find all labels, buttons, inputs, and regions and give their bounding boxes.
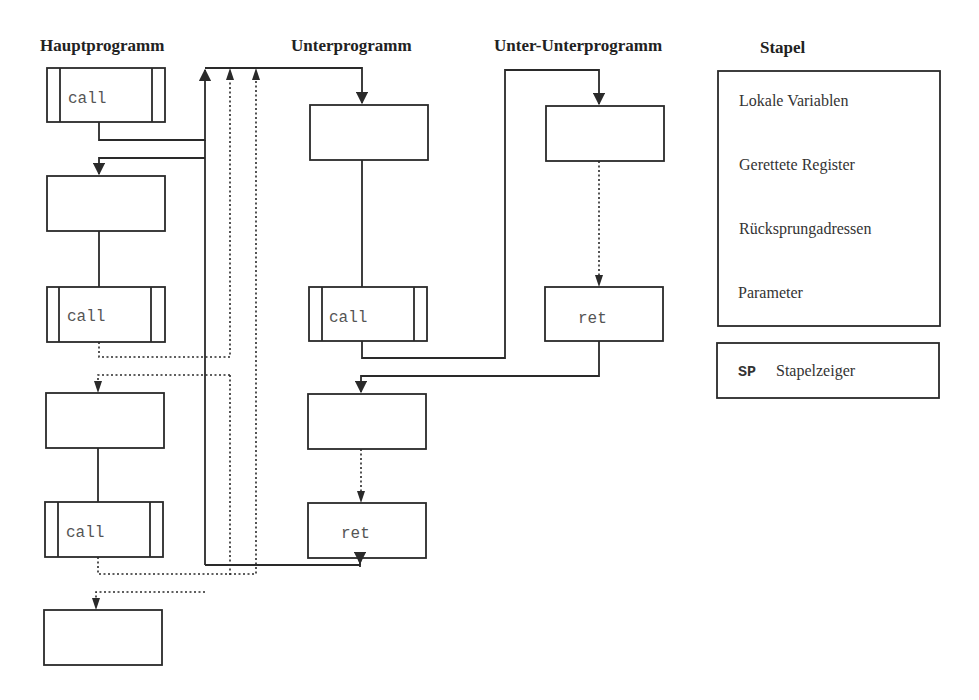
main-call-1-label: call [68,90,106,108]
sub-ret-label: ret [341,525,370,543]
stack-pointer-label: Stapelzeiger [776,362,855,379]
subsub-block-1 [546,106,664,161]
main-block-6 [44,610,162,665]
subsub-ret-label: ret [578,310,607,328]
sub-block-3 [308,394,426,449]
main-block-4 [46,393,164,448]
main-block-call-3 [47,287,165,342]
stack-item-saved-registers: Gerettete Register [739,156,855,174]
main-block-2 [47,176,165,231]
stack-pointer-row: SP Stapelzeiger [738,362,855,381]
stack-item-return-addresses: Rücksprungadressen [739,220,871,238]
main-call-5-label: call [66,524,104,542]
stack-pointer-abbr: SP [738,364,756,381]
main-call-3-label: call [67,308,105,326]
sub-call-label: call [329,309,367,327]
sub-block-call-2 [309,287,427,341]
stack-item-parameters: Parameter [738,284,803,302]
sub-block-1 [310,105,428,160]
stack-item-local-variables: Lokale Variablen [739,92,848,110]
